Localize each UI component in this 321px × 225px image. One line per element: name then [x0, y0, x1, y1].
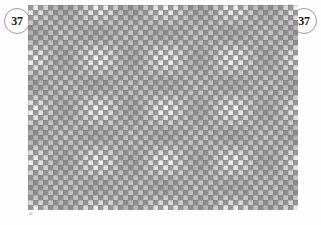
figure-page: 37 37 40 40: [0, 0, 321, 225]
moire-pattern-plate: [28, 5, 298, 210]
page-number-badge-left: 37: [4, 8, 30, 34]
moire-pattern-canvas: [28, 5, 298, 210]
corner-mark-bottom-left: 40: [29, 212, 33, 216]
